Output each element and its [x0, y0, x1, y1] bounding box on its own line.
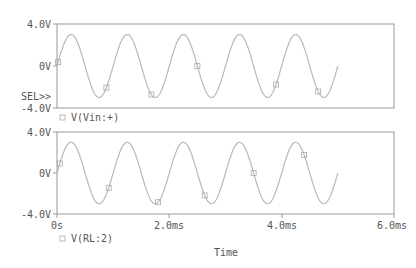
- y-tick-label: 0V: [39, 168, 51, 179]
- trace-markers: [56, 60, 321, 97]
- x-tick-label: 4.0ms: [267, 220, 297, 231]
- x-tick-label: 0s: [51, 220, 63, 231]
- trace-vin[interactable]: [57, 35, 338, 98]
- y-tick-label: 4.0V: [27, 19, 51, 30]
- legend-rl[interactable]: V(RL:2): [71, 233, 113, 244]
- probe-plot-window: 4.0V 0V -4.0V SEL>> V(Vin:+) 4.0V 0V -4.…: [0, 0, 416, 268]
- trace-rl[interactable]: [57, 142, 338, 204]
- trace-markers: [57, 152, 306, 204]
- legend-vin[interactable]: V(Vin:+): [71, 112, 119, 123]
- y-tick-label: 0V: [39, 61, 51, 72]
- legend-marker-icon: [60, 115, 65, 120]
- x-axis-title: Time: [214, 247, 238, 258]
- selector-label[interactable]: SEL>>: [21, 91, 51, 102]
- x-tick-label: 6.0ms: [377, 220, 407, 231]
- plot-vin[interactable]: 4.0V 0V -4.0V SEL>> V(Vin:+): [21, 19, 394, 123]
- y-tick-label: -4.0V: [21, 209, 51, 220]
- x-tick-label: 2.0ms: [154, 220, 184, 231]
- plot-rl[interactable]: 4.0V 0V -4.0V 0s 2.0ms 4.0ms 6.0ms V(RL:…: [21, 127, 407, 258]
- legend-marker-icon: [60, 236, 65, 241]
- y-tick-label: -4.0V: [21, 103, 51, 114]
- y-tick-label: 4.0V: [27, 127, 51, 138]
